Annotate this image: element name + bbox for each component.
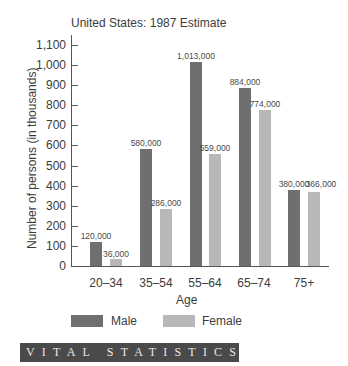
bar-female-35-54	[160, 209, 172, 266]
vital-statistics-banner: VITAL STATISTICS	[20, 343, 239, 362]
y-tick	[72, 65, 78, 66]
value-label: 1,013,000	[171, 51, 221, 61]
x-tick-label: 20–34	[81, 276, 131, 290]
legend-label-male: Male	[111, 314, 137, 328]
bar-male-55-64	[190, 62, 202, 266]
bar-female-75plus	[308, 192, 320, 266]
y-tick-label: 300	[16, 199, 66, 213]
bar-male-65-74	[239, 88, 251, 266]
x-axis-line	[71, 266, 329, 267]
y-tick	[72, 166, 78, 167]
y-tick-label: 100	[16, 239, 66, 253]
x-tick-label: 55–64	[180, 276, 230, 290]
value-label: 286,000	[141, 198, 191, 208]
y-tick	[72, 45, 78, 46]
y-tick-label: 1,100	[16, 38, 66, 52]
y-tick-label: 1,000	[16, 58, 66, 72]
bar-male-75plus	[288, 190, 300, 266]
x-axis-title: Age	[176, 293, 197, 307]
value-label: 120,000	[71, 231, 121, 241]
y-tick	[72, 186, 78, 187]
value-label: 580,000	[121, 138, 171, 148]
y-tick-label: 800	[16, 98, 66, 112]
y-tick	[72, 105, 78, 106]
legend-swatch-female	[163, 315, 195, 327]
y-tick-label: 600	[16, 138, 66, 152]
y-tick-label: 900	[16, 78, 66, 92]
y-tick-label: 0	[16, 259, 66, 273]
y-tick	[72, 125, 78, 126]
y-tick	[72, 85, 78, 86]
value-label: 884,000	[220, 77, 270, 87]
x-tick-label: 65–74	[229, 276, 279, 290]
x-tick-label: 75+	[279, 276, 329, 290]
y-tick	[72, 226, 78, 227]
value-label: 559,000	[190, 143, 240, 153]
legend-label-female: Female	[202, 314, 242, 328]
y-tick	[72, 206, 78, 207]
value-label: 774,000	[240, 99, 290, 109]
value-label: 36,000	[91, 249, 141, 259]
bar-female-55-64	[209, 154, 221, 266]
y-tick	[72, 246, 78, 247]
chart-title: United States: 1987 Estimate	[71, 16, 226, 30]
x-tick-label: 35–54	[131, 276, 181, 290]
y-tick-label: 200	[16, 219, 66, 233]
legend-swatch-male	[71, 315, 103, 327]
y-tick	[72, 266, 78, 267]
y-tick	[72, 145, 78, 146]
y-tick-label: 500	[16, 159, 66, 173]
bar-female-20-34	[110, 259, 122, 266]
value-label: 366,000	[296, 179, 346, 189]
y-tick-label: 400	[16, 179, 66, 193]
y-tick-label: 700	[16, 118, 66, 132]
